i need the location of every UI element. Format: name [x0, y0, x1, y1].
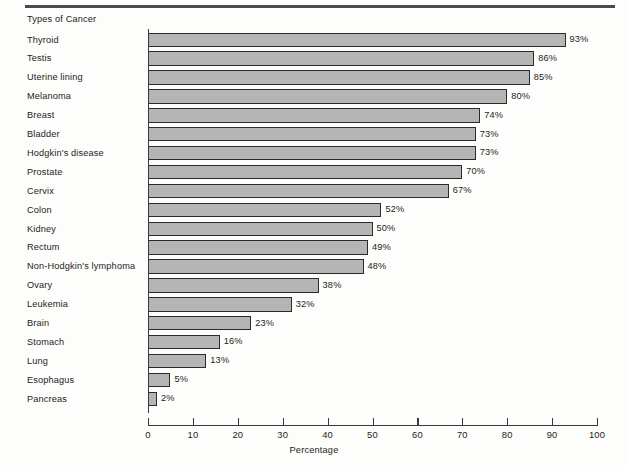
- x-axis-tick-label: 60: [412, 429, 423, 440]
- category-label: Leukemia: [27, 299, 68, 309]
- bar-value-label: 67%: [453, 183, 472, 198]
- category-label: Uterine lining: [27, 72, 83, 82]
- plot-area: 93%86%85%80%74%73%73%70%67%52%50%49%48%3…: [148, 31, 597, 412]
- category-axis-header: Types of Cancer: [27, 14, 96, 24]
- bar: [148, 127, 476, 141]
- x-axis-title: Percentage: [0, 445, 628, 455]
- x-axis-tick-label: 40: [322, 429, 333, 440]
- bar-value-label: 48%: [368, 259, 387, 274]
- bar-row: 16%: [148, 333, 597, 352]
- category-label: Prostate: [27, 167, 62, 177]
- bar: [148, 70, 530, 84]
- category-label: Bladder: [27, 129, 60, 139]
- bar-row: 49%: [148, 239, 597, 258]
- bar-row: 13%: [148, 352, 597, 371]
- bar-value-label: 49%: [372, 240, 391, 255]
- bar-value-label: 74%: [484, 108, 503, 123]
- x-axis-tick: [373, 418, 374, 425]
- bar-row: 48%: [148, 258, 597, 277]
- x-axis-tick-label: 20: [232, 429, 243, 440]
- bar-row: 32%: [148, 296, 597, 315]
- bar-value-label: 5%: [174, 372, 188, 387]
- category-label: Colon: [27, 205, 52, 215]
- bar-row: 52%: [148, 201, 597, 220]
- bar: [148, 108, 480, 122]
- category-label: Melanoma: [27, 91, 71, 101]
- bar-row: 73%: [148, 126, 597, 145]
- x-axis-tick-label: 80: [502, 429, 513, 440]
- bar-value-label: 23%: [255, 316, 274, 331]
- bar: [148, 392, 157, 406]
- bar: [148, 222, 373, 236]
- bar-row: 73%: [148, 144, 597, 163]
- chart-page: Types of Cancer ThyroidTestisUterine lin…: [0, 0, 628, 466]
- bar-value-label: 32%: [296, 297, 315, 312]
- bar-value-label: 85%: [534, 70, 553, 85]
- bar: [148, 373, 170, 387]
- x-axis-tick-label: 30: [277, 429, 288, 440]
- x-axis-tick-label: 90: [547, 429, 558, 440]
- x-axis-tick: [238, 418, 239, 425]
- category-label: Breast: [27, 110, 54, 120]
- bar: [148, 184, 449, 198]
- y-axis-line: [148, 29, 149, 413]
- x-axis-tick-label: 10: [187, 429, 198, 440]
- bar-row: 50%: [148, 220, 597, 239]
- category-label: Non-Hodgkin's lymphoma: [27, 261, 135, 271]
- bar: [148, 89, 507, 103]
- bar-value-label: 86%: [538, 51, 557, 66]
- x-axis-tick: [597, 418, 598, 425]
- bar: [148, 33, 566, 47]
- bar-row: 74%: [148, 107, 597, 126]
- bar-value-label: 73%: [480, 127, 499, 142]
- category-label: Thyroid: [27, 35, 59, 45]
- bar-row: 80%: [148, 88, 597, 107]
- x-axis-tick: [328, 418, 329, 425]
- bar-value-label: 13%: [210, 353, 229, 368]
- bar: [148, 51, 534, 65]
- bar: [148, 278, 319, 292]
- category-label: Rectum: [27, 242, 60, 252]
- bar: [148, 297, 292, 311]
- bar-value-label: 2%: [161, 391, 175, 406]
- bar: [148, 259, 364, 273]
- bar-row: 2%: [148, 390, 597, 409]
- bar-row: 23%: [148, 315, 597, 334]
- bar-row: 38%: [148, 277, 597, 296]
- category-label: Ovary: [27, 280, 52, 290]
- category-label: Pancreas: [27, 394, 67, 404]
- bar: [148, 335, 220, 349]
- x-axis-tick: [148, 418, 149, 425]
- x-axis-tick-label: 70: [457, 429, 468, 440]
- bar: [148, 316, 251, 330]
- bar-value-label: 70%: [466, 164, 485, 179]
- bar: [148, 146, 476, 160]
- bar-value-label: 93%: [570, 32, 589, 47]
- category-label: Kidney: [27, 224, 56, 234]
- bar-value-label: 50%: [377, 221, 396, 236]
- x-axis-line: [148, 425, 598, 426]
- bar-value-label: 80%: [511, 89, 530, 104]
- x-axis-tick: [552, 418, 553, 425]
- category-label: Stomach: [27, 337, 64, 347]
- bar: [148, 203, 381, 217]
- x-axis-tick-label: 0: [145, 429, 150, 440]
- bar: [148, 165, 462, 179]
- category-label: Esophagus: [27, 375, 74, 385]
- bar-row: 5%: [148, 371, 597, 390]
- bar-value-label: 73%: [480, 145, 499, 160]
- bar-row: 67%: [148, 182, 597, 201]
- x-axis-tick-label: 50: [367, 429, 378, 440]
- bar-row: 86%: [148, 50, 597, 69]
- x-axis-tick-label: 100: [589, 429, 605, 440]
- category-label: Lung: [27, 356, 48, 366]
- bar-row: 85%: [148, 69, 597, 88]
- category-label: Brain: [27, 318, 49, 328]
- bar-row: 70%: [148, 163, 597, 182]
- x-axis-tick: [507, 418, 508, 425]
- bar-value-label: 38%: [323, 278, 342, 293]
- horizontal-bar-chart: Types of Cancer ThyroidTestisUterine lin…: [0, 0, 628, 466]
- x-axis-tick: [283, 418, 284, 425]
- x-axis-tick: [417, 418, 418, 425]
- bar: [148, 354, 206, 368]
